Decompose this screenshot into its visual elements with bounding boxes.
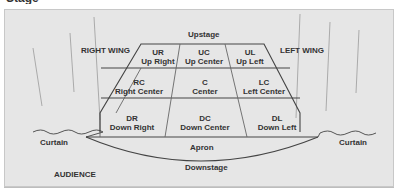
curtain-left-label: Curtain <box>40 138 68 147</box>
area-ul: ULUp Left <box>228 48 272 66</box>
area-lc: LCLeft Center <box>238 78 290 96</box>
audience-label: AUDIENCE <box>54 170 96 179</box>
area-rc: RCRight Center <box>113 78 165 96</box>
upstage-label: Upstage <box>188 30 220 39</box>
left-wing-label: LEFT WING <box>280 46 324 55</box>
downstage-label: Downstage <box>185 163 228 172</box>
area-dc: DCDown Center <box>180 114 230 132</box>
apron-label: Apron <box>190 143 214 152</box>
area-dl: DLDown Left <box>252 114 302 132</box>
right-wing-label: RIGHT WING <box>81 46 130 55</box>
area-uc: UCUp Center <box>182 48 226 66</box>
area-c: CCenter <box>179 78 231 96</box>
area-ur: URUp Right <box>136 48 180 66</box>
area-dr: DRDown Right <box>107 114 157 132</box>
curtain-right-label: Curtain <box>339 138 367 147</box>
